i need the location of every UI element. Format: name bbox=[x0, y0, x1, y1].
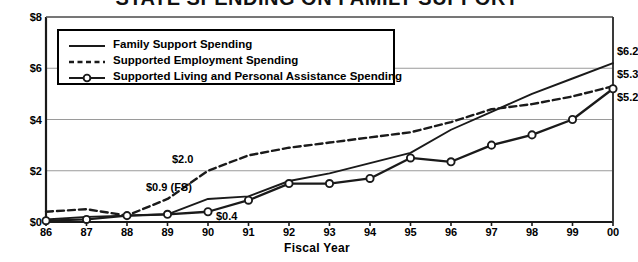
data-value-annotation: $0.9 (FS) bbox=[146, 181, 192, 193]
data-point-marker bbox=[245, 197, 252, 204]
legend-item-label: Family Support Spending bbox=[113, 38, 252, 50]
x-axis-title: Fiscal Year bbox=[0, 241, 634, 255]
legend-swatch-icon bbox=[67, 38, 107, 50]
series-line-0 bbox=[46, 63, 613, 219]
data-point-marker bbox=[569, 116, 576, 123]
x-axis-tick-label: 89 bbox=[153, 226, 183, 238]
data-point-marker bbox=[83, 216, 90, 223]
x-axis-tick-label: 86 bbox=[31, 226, 61, 238]
x-axis-tick-label: 96 bbox=[436, 226, 466, 238]
legend-item[interactable]: Supported Employment Spending bbox=[67, 52, 385, 68]
x-axis-tick-label: 91 bbox=[234, 226, 264, 238]
data-point-marker bbox=[326, 180, 333, 187]
series-line-1 bbox=[46, 86, 613, 215]
data-point-marker bbox=[285, 180, 292, 187]
data-value-annotation: $5.3 bbox=[617, 68, 638, 80]
data-point-marker bbox=[204, 208, 211, 215]
x-axis-tick-label: 95 bbox=[396, 226, 426, 238]
data-point-marker bbox=[164, 211, 171, 218]
data-point-marker bbox=[528, 131, 535, 138]
x-axis-tick-label: 98 bbox=[517, 226, 547, 238]
data-point-marker bbox=[447, 158, 454, 165]
legend-item[interactable]: Family Support Spending bbox=[67, 36, 385, 52]
chart-legend: Family Support SpendingSupported Employm… bbox=[57, 29, 395, 85]
data-value-annotation: $6.2 bbox=[617, 45, 638, 57]
data-point-marker bbox=[407, 154, 414, 161]
data-point-marker bbox=[123, 212, 130, 219]
legend-item-label: Supported Employment Spending bbox=[113, 54, 298, 66]
legend-item[interactable]: Supported Living and Personal Assistance… bbox=[67, 68, 385, 84]
x-axis-labels: 868788899091929394959697989900 bbox=[0, 226, 634, 242]
data-point-marker bbox=[366, 175, 373, 182]
x-axis-tick-label: 88 bbox=[112, 226, 142, 238]
series-line-2 bbox=[46, 89, 613, 221]
x-axis-tick-label: 92 bbox=[274, 226, 304, 238]
data-value-annotation: $5.2 bbox=[617, 91, 638, 103]
data-value-annotation: $2.0 bbox=[172, 153, 193, 165]
x-axis-tick-label: 97 bbox=[477, 226, 507, 238]
data-point-marker bbox=[609, 85, 616, 92]
x-axis-tick-label: 94 bbox=[355, 226, 385, 238]
legend-swatch-icon bbox=[67, 54, 107, 66]
data-point-marker bbox=[488, 142, 495, 149]
x-axis-tick-label: 90 bbox=[193, 226, 223, 238]
data-point-marker bbox=[42, 217, 49, 224]
x-axis-tick-label: 93 bbox=[315, 226, 345, 238]
data-value-annotation: $0.4 bbox=[216, 210, 237, 222]
x-axis-tick-label: 00 bbox=[598, 226, 628, 238]
legend-swatch-icon bbox=[67, 70, 107, 82]
x-axis-tick-label: 99 bbox=[558, 226, 588, 238]
x-axis-tick-label: 87 bbox=[72, 226, 102, 238]
legend-item-label: Supported Living and Personal Assistance… bbox=[113, 70, 402, 82]
